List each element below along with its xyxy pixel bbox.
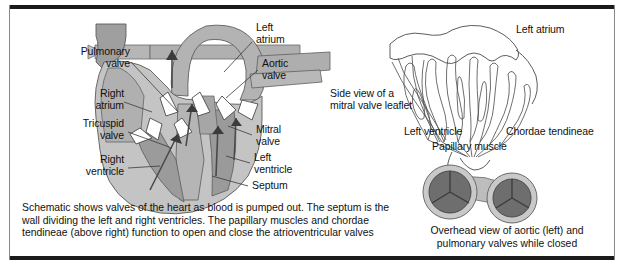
label-right-ventricle: Right ventricle [52, 154, 124, 177]
label-septum: Septum [252, 180, 312, 192]
left-panel-caption: Schematic shows valves of the heart as b… [22, 202, 402, 240]
heart-anatomy-figure: Pulmonary valve Right atrium Tricuspid v… [0, 0, 624, 265]
label-right-atrium: Right atrium [58, 88, 124, 111]
overhead-valve-art [423, 165, 537, 223]
label-papillary-muscle: Papillary muscle [432, 141, 528, 153]
label-side-view-title: Side view of a mitral valve leaflet [330, 88, 426, 111]
right-panel-caption: Overhead view of aortic (left) and pulmo… [416, 225, 598, 250]
label-mitral-valve: Mitral valve [256, 124, 314, 147]
label-left-atrium: Left atrium [256, 22, 316, 45]
label-left-ventricle: Left ventricle [254, 152, 316, 175]
label-pulmonary-valve: Pulmonary valve [58, 46, 130, 69]
label-tricuspid-valve: Tricuspid valve [50, 118, 124, 141]
label-right-left-ventricle: Left ventricle [404, 126, 480, 138]
label-right-left-atrium: Left atrium [516, 24, 602, 36]
label-aortic-valve: Aortic valve [262, 58, 320, 81]
label-chordae-tendineae: Chordae tendineae [506, 126, 610, 138]
